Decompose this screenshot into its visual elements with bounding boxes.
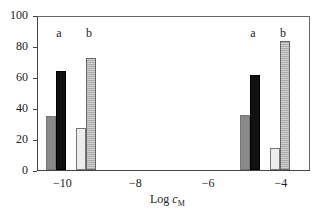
x-tick-label: −6 <box>202 176 215 191</box>
y-tick-mark <box>33 16 37 17</box>
plot-area <box>37 16 310 171</box>
x-tick-label: −10 <box>53 176 72 191</box>
bar-a-gray <box>240 115 250 170</box>
y-tick-label: 100 <box>0 8 28 23</box>
group-label-b: b <box>280 26 286 41</box>
bar-b-striped <box>86 58 96 170</box>
bar-b-light <box>76 128 86 170</box>
y-tick-mark <box>33 47 37 48</box>
group-label-b: b <box>86 26 92 41</box>
y-tick-mark <box>33 109 37 110</box>
y-tick-label: 80 <box>0 39 28 54</box>
group-label-a: a <box>250 26 255 41</box>
bar-a-black <box>250 75 260 170</box>
bar-a-black <box>56 71 66 170</box>
y-tick-label: 60 <box>0 70 28 85</box>
bar-a-gray <box>46 116 56 170</box>
group-label-a: a <box>56 26 61 41</box>
y-tick-mark <box>33 78 37 79</box>
x-axis-label: Log cM <box>150 192 185 208</box>
bar-b-striped <box>280 41 290 170</box>
bar-b-light <box>270 148 280 170</box>
y-tick-label: 20 <box>0 132 28 147</box>
x-tick-label: −4 <box>274 176 287 191</box>
y-tick-label: 0 <box>0 163 28 178</box>
y-tick-mark <box>33 171 37 172</box>
x-tick-label: −8 <box>129 176 142 191</box>
y-tick-mark <box>33 140 37 141</box>
y-tick-label: 40 <box>0 101 28 116</box>
